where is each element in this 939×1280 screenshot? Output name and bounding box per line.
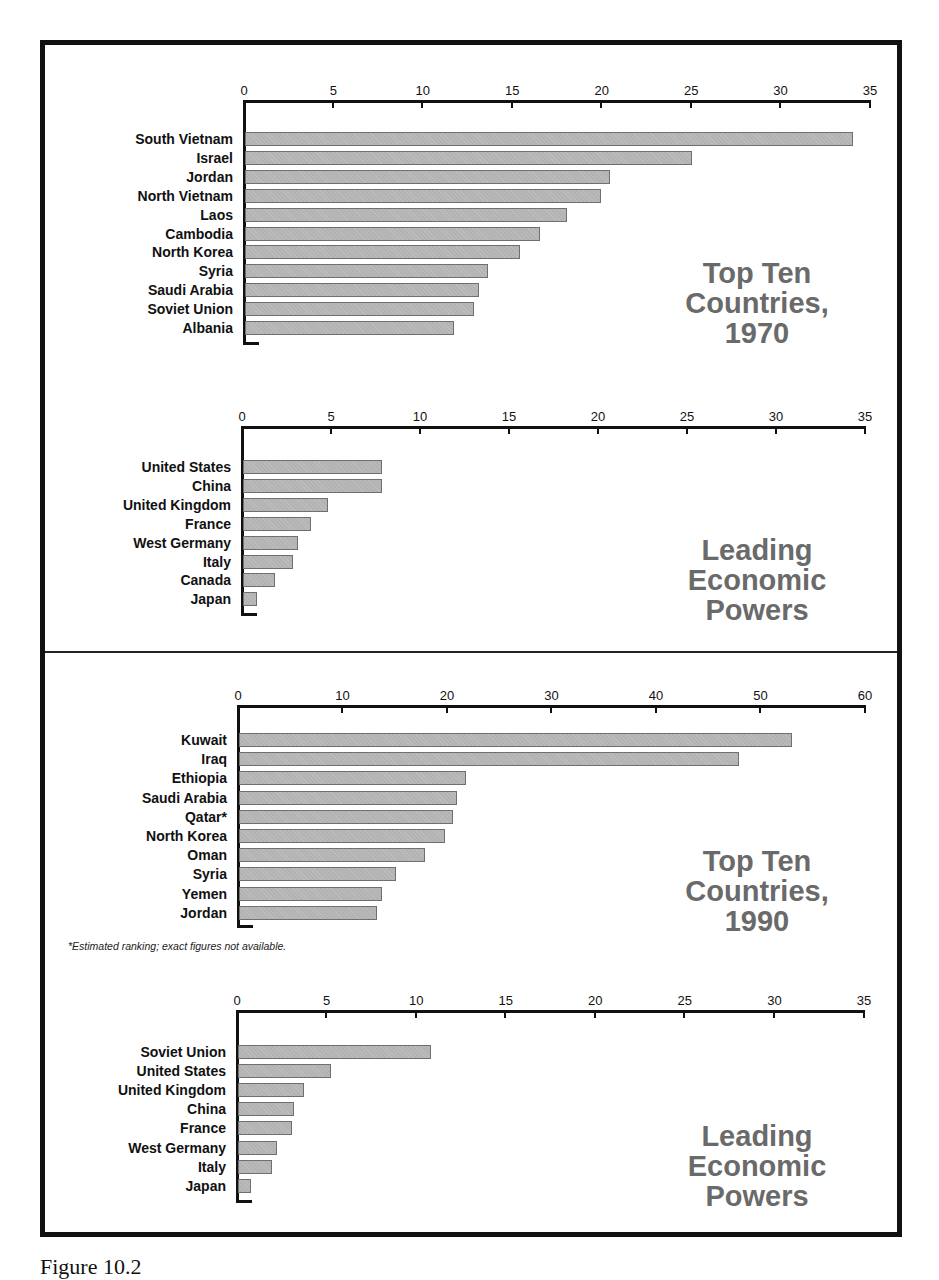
category-label: Oman bbox=[27, 847, 227, 863]
bar bbox=[245, 264, 488, 278]
x-tick-label: 10 bbox=[409, 993, 423, 1008]
x-axis-line bbox=[241, 426, 866, 429]
x-tick bbox=[332, 101, 334, 108]
bar bbox=[239, 887, 382, 901]
x-tick-label: 35 bbox=[863, 83, 877, 98]
bar bbox=[238, 1045, 431, 1059]
chart-title: Leading Economic Powers bbox=[647, 1121, 867, 1211]
x-tick-label: 0 bbox=[238, 409, 245, 424]
bar bbox=[239, 829, 445, 843]
x-tick bbox=[330, 427, 332, 434]
x-tick-label: 30 bbox=[769, 409, 783, 424]
x-tick bbox=[421, 101, 423, 108]
x-tick-label: 5 bbox=[330, 83, 337, 98]
category-label: Japan bbox=[26, 1178, 226, 1194]
x-tick-label: 20 bbox=[588, 993, 602, 1008]
x-tick bbox=[655, 706, 657, 713]
y-axis-foot bbox=[237, 925, 253, 928]
x-tick-label: 25 bbox=[684, 83, 698, 98]
bar bbox=[239, 810, 453, 824]
category-label: Jordan bbox=[27, 905, 227, 921]
category-label: United Kingdom bbox=[26, 1082, 226, 1098]
bar bbox=[238, 1121, 292, 1135]
bar bbox=[245, 227, 540, 241]
category-label: United States bbox=[31, 459, 231, 475]
category-label: Jordan bbox=[33, 169, 233, 185]
bar bbox=[243, 460, 382, 474]
bar bbox=[239, 771, 466, 785]
bar bbox=[245, 283, 479, 297]
x-tick-label: 50 bbox=[753, 688, 767, 703]
bar bbox=[245, 170, 610, 184]
category-label: Japan bbox=[31, 591, 231, 607]
category-label: South Vietnam bbox=[33, 131, 233, 147]
category-label: Soviet Union bbox=[33, 301, 233, 317]
bar bbox=[243, 517, 311, 531]
category-label: Saudi Arabia bbox=[33, 282, 233, 298]
bar bbox=[243, 555, 293, 569]
bar bbox=[239, 906, 377, 920]
x-tick bbox=[686, 427, 688, 434]
x-tick bbox=[419, 427, 421, 434]
x-tick-label: 20 bbox=[440, 688, 454, 703]
category-label: Cambodia bbox=[33, 226, 233, 242]
x-tick bbox=[341, 706, 343, 713]
bar bbox=[245, 208, 567, 222]
x-tick bbox=[773, 1011, 775, 1018]
category-label: Saudi Arabia bbox=[27, 790, 227, 806]
bar bbox=[239, 867, 396, 881]
x-tick-label: 35 bbox=[857, 993, 871, 1008]
bar bbox=[245, 189, 601, 203]
category-label: Soviet Union bbox=[26, 1044, 226, 1060]
category-label: United States bbox=[26, 1063, 226, 1079]
x-tick-label: 15 bbox=[505, 83, 519, 98]
bar bbox=[238, 1083, 304, 1097]
bar bbox=[245, 132, 853, 146]
category-label: Syria bbox=[27, 866, 227, 882]
bar bbox=[239, 733, 792, 747]
bar bbox=[238, 1064, 331, 1078]
chart-title: Top Ten Countries, 1990 bbox=[647, 846, 867, 936]
x-tick bbox=[508, 427, 510, 434]
x-tick bbox=[864, 706, 866, 713]
bar bbox=[243, 479, 382, 493]
category-label: Yemen bbox=[27, 886, 227, 902]
category-label: Canada bbox=[31, 572, 231, 588]
x-tick bbox=[863, 1011, 865, 1018]
x-tick bbox=[683, 1011, 685, 1018]
x-tick-label: 15 bbox=[502, 409, 516, 424]
bar bbox=[243, 592, 257, 606]
bar bbox=[239, 791, 457, 805]
bar bbox=[239, 752, 739, 766]
category-label: Italy bbox=[31, 554, 231, 570]
bar bbox=[238, 1160, 272, 1174]
category-label: Italy bbox=[26, 1159, 226, 1175]
x-tick-label: 15 bbox=[498, 993, 512, 1008]
x-tick bbox=[600, 101, 602, 108]
category-label: Qatar* bbox=[27, 809, 227, 825]
x-tick-label: 0 bbox=[233, 993, 240, 1008]
bar bbox=[243, 536, 298, 550]
x-tick-label: 0 bbox=[240, 83, 247, 98]
category-label: Syria bbox=[33, 263, 233, 279]
category-label: Israel bbox=[33, 150, 233, 166]
category-label: France bbox=[31, 516, 231, 532]
x-tick-label: 40 bbox=[649, 688, 663, 703]
category-label: United Kingdom bbox=[31, 497, 231, 513]
y-axis-foot bbox=[236, 1200, 252, 1203]
x-tick bbox=[759, 706, 761, 713]
x-tick-label: 60 bbox=[858, 688, 872, 703]
category-label: China bbox=[31, 478, 231, 494]
category-label: North Korea bbox=[27, 828, 227, 844]
x-tick bbox=[779, 101, 781, 108]
x-tick-label: 35 bbox=[858, 409, 872, 424]
bar bbox=[245, 302, 474, 316]
bar bbox=[243, 573, 275, 587]
bar bbox=[238, 1141, 277, 1155]
category-label: West Germany bbox=[31, 535, 231, 551]
x-tick bbox=[594, 1011, 596, 1018]
category-label: France bbox=[26, 1120, 226, 1136]
category-label: Kuwait bbox=[27, 732, 227, 748]
bar bbox=[243, 498, 328, 512]
x-tick bbox=[325, 1011, 327, 1018]
